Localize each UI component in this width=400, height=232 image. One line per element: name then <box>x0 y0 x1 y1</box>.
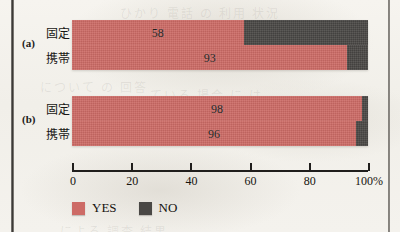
x-axis-tick-label: 80 <box>304 174 316 189</box>
x-axis-tick-label: 100% <box>355 174 383 189</box>
legend-item-yes[interactable]: YES <box>72 200 117 216</box>
category-label-a-mobile: 携帯 <box>46 49 70 66</box>
bar-row-a-mobile[interactable]: 93 <box>72 45 368 70</box>
x-axis-tick <box>131 163 133 171</box>
x-axis-tick-label: 20 <box>126 174 138 189</box>
x-axis-line <box>72 170 368 172</box>
bar-value-label: 98 <box>211 101 223 116</box>
legend: YES NO <box>72 200 177 216</box>
category-label-a-fixed: 固定 <box>46 24 70 41</box>
category-label-b-mobile: 携帯 <box>46 125 70 142</box>
legend-swatch-yes-icon <box>72 202 85 215</box>
bar-value-label: 58 <box>152 25 164 40</box>
legend-label-yes: YES <box>92 200 117 216</box>
bar-segment-no[interactable] <box>356 121 368 146</box>
group-tag-b: (b) <box>22 113 35 125</box>
x-axis-tick <box>250 163 252 171</box>
bar-segment-no[interactable] <box>362 96 368 121</box>
bar-segment-no[interactable] <box>347 45 368 70</box>
bar-segment-no[interactable] <box>244 20 368 45</box>
x-axis-tick <box>190 163 192 171</box>
figure-page: ひかり 電話 の 利用 状況 について の 回答 ている 場合 に は による … <box>0 0 400 232</box>
category-label-b-fixed: 固定 <box>46 100 70 117</box>
x-axis-tick-label: 0 <box>70 174 76 189</box>
x-axis-tick-label: 60 <box>245 174 257 189</box>
x-axis-tick-label: 40 <box>185 174 197 189</box>
bar-row-b-mobile[interactable]: 96 <box>72 121 368 146</box>
bar-row-a-fixed[interactable]: 58 <box>72 20 368 45</box>
bar-row-b-fixed[interactable]: 98 <box>72 96 368 121</box>
bar-value-label: 96 <box>208 126 220 141</box>
x-axis-tick <box>72 163 74 171</box>
x-axis-tick <box>309 163 311 171</box>
legend-label-no: NO <box>159 200 178 216</box>
legend-item-no[interactable]: NO <box>139 200 178 216</box>
x-axis-tick <box>368 163 370 171</box>
stacked-bar-chart: (a) 固定 携帯 58 93 (b) 固定 携帯 98 96 <box>0 0 400 232</box>
group-tag-a: (a) <box>22 37 35 49</box>
legend-swatch-no-icon <box>139 202 152 215</box>
bar-value-label: 93 <box>204 50 216 65</box>
